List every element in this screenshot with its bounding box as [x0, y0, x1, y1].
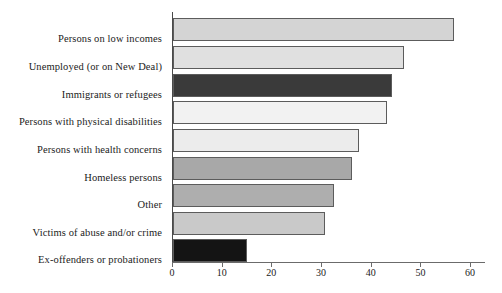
category-label: Ex-offenders or probationers	[0, 255, 162, 266]
x-axis-ticks: 0102030405060	[172, 262, 502, 286]
bar-chart: Persons on low incomes Unemployed (or on…	[0, 0, 502, 293]
x-axis-tick-label: 10	[217, 268, 227, 278]
category-label: Victims of abuse and/or crime	[0, 228, 162, 239]
bar-persons-with-health-concerns	[173, 129, 359, 152]
bar-persons-with-physical-disabilities	[173, 101, 387, 124]
bar-victims-of-abuse-and-or-crime	[173, 212, 325, 235]
plot-area	[172, 12, 490, 262]
x-axis-tick-label: 30	[316, 268, 326, 278]
bar-homeless-persons	[173, 157, 352, 180]
bar-other	[173, 184, 334, 207]
x-axis-tick-label: 60	[465, 268, 475, 278]
x-axis-tick-label: 20	[266, 268, 276, 278]
category-label: Persons with physical disabilities	[0, 117, 162, 128]
bar-ex-offenders-or-probationers	[173, 239, 247, 262]
category-label: Homeless persons	[0, 173, 162, 184]
bar-immigrants-or-refugees	[173, 74, 392, 97]
category-label: Immigrants or refugees	[0, 90, 162, 101]
category-label: Unemployed (or on New Deal)	[0, 62, 162, 73]
bar-unemployed-or-on-new-deal	[173, 46, 404, 69]
bar-persons-on-low-incomes	[173, 18, 454, 41]
x-axis-tick-label: 40	[366, 268, 376, 278]
category-label: Persons with health concerns	[0, 145, 162, 156]
category-label: Persons on low incomes	[0, 34, 162, 45]
x-axis-tick-label: 0	[170, 268, 175, 278]
x-axis-tick-label: 50	[415, 268, 425, 278]
category-label: Other	[0, 200, 162, 211]
category-axis-labels: Persons on low incomes Unemployed (or on…	[0, 12, 168, 262]
